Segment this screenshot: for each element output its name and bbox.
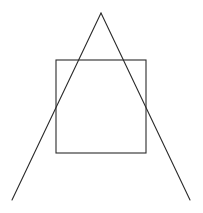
diagram-canvas xyxy=(0,0,203,213)
triangle-right-side xyxy=(101,13,190,200)
triangle-left-side xyxy=(12,13,101,200)
square-shape xyxy=(56,60,146,153)
